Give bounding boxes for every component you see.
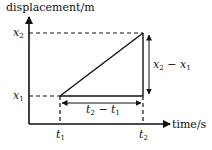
displacement-time-diagram: displacement/m time/s x2 x1 t1 t2 x2 − x… <box>0 0 212 150</box>
t1-label: t1 <box>56 128 65 142</box>
displacement-line <box>60 33 143 96</box>
x1-label: x1 <box>13 89 24 103</box>
delta-x-label: x2 − x1 <box>153 58 191 72</box>
y-axis-title: displacement/m <box>6 1 95 14</box>
x2-label: x2 <box>13 26 24 40</box>
delta-t-label: t2 − t1 <box>86 103 120 117</box>
t2-label: t2 <box>139 128 148 142</box>
x-axis-title: time/s <box>172 118 207 131</box>
